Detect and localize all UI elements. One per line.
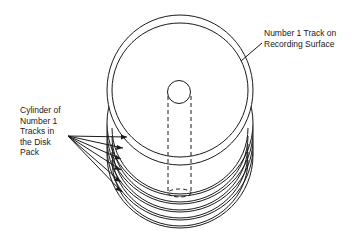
cylinder-label: Cylinder of Number 1 Tracks in the Disk … bbox=[20, 105, 61, 158]
track-leader-line bbox=[241, 43, 262, 61]
track-label: Number 1 Track on Recording Surface bbox=[264, 28, 336, 49]
disk-1 bbox=[107, 15, 253, 165]
